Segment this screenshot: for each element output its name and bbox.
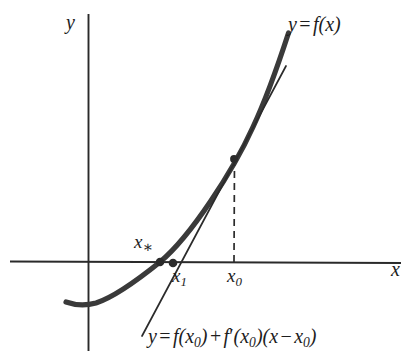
tangent-eq-equals: = (157, 325, 173, 347)
tangent-eq-arg1-subscript: 0 (194, 335, 201, 350)
curve-label-arg: (x) (319, 13, 341, 35)
x-axis-label: x (391, 259, 400, 279)
newton-method-figure: y x y=f(x) x∗ x1 x0 y=f(x0)+f′(x0)(x−x0) (0, 0, 416, 360)
y-axis-label: y (66, 12, 75, 32)
root-point-label: x∗ (134, 232, 153, 254)
curve-label-equals: = (297, 13, 313, 35)
tangent-eq-arg2-open: (x (234, 325, 250, 347)
tangent-eq-arg1-close: ) (201, 325, 208, 347)
tangent-eq-arg2-subscript: 0 (249, 335, 256, 350)
curve-label-y: y (288, 13, 297, 35)
tangent-eq-arg1-open: (x (179, 325, 195, 347)
tangent-eq-arg2-close: ) (256, 325, 263, 347)
tangent-equation-label: y=f(x0)+f′(x0)(x−x0) (148, 326, 317, 350)
tangency-point-marker (230, 155, 238, 163)
figure-canvas (0, 0, 416, 360)
tangent-eq-minus: − (278, 325, 294, 347)
root-point-label-subscript: ∗ (142, 238, 153, 255)
tangent-eq-arg3-subscript: 0 (303, 335, 310, 350)
x0-label-subscript: 0 (235, 274, 241, 289)
tangent-eq-arg3-close: ) (310, 325, 317, 347)
tangent-eq-plus: + (208, 325, 224, 347)
x0-drop-line (234, 159, 235, 262)
x1-point-label: x1 (172, 266, 187, 289)
tangent-eq-arg3-x: x (294, 325, 303, 347)
root-point-marker (156, 258, 165, 267)
x1-point-label-subscript: 1 (180, 274, 186, 289)
tangent-eq-lhs: y (148, 325, 157, 347)
x-axis-line (10, 262, 401, 264)
tangent-eq-arg3-open: (x (263, 325, 279, 347)
tangent-line (142, 66, 286, 336)
function-curve-label: y=f(x) (288, 14, 341, 34)
x0-axis-label: x0 (227, 266, 242, 289)
